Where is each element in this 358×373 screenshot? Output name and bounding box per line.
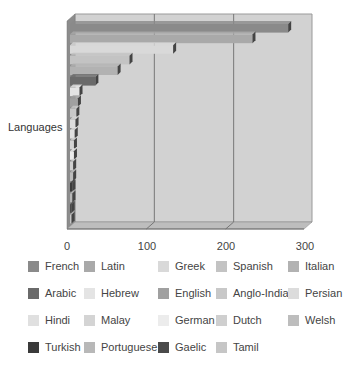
- legend-swatch: [288, 288, 299, 299]
- legend-swatch: [216, 288, 227, 299]
- legend-swatch: [84, 342, 95, 353]
- legend-item-turkish: Turkish: [28, 341, 81, 353]
- legend-label: Hindi: [45, 314, 70, 326]
- legend-label: Spanish: [233, 260, 273, 272]
- legend-label: Latin: [101, 260, 125, 272]
- legend-label: Turkish: [45, 341, 81, 353]
- legend-label: French: [45, 260, 79, 272]
- legend-item-portuguese: Portuguese: [84, 341, 157, 353]
- legend-swatch: [28, 261, 39, 272]
- legend-label: Greek: [175, 260, 205, 272]
- legend-label: Hebrew: [101, 287, 139, 299]
- legend-item-tamil: Tamil: [216, 341, 259, 353]
- legend-swatch: [158, 342, 169, 353]
- legend-swatch: [84, 288, 95, 299]
- legend-item-greek: Greek: [158, 260, 205, 272]
- legend-label: Welsh: [305, 314, 335, 326]
- legend-item-hindi: Hindi: [28, 314, 70, 326]
- legend-swatch: [288, 315, 299, 326]
- bar-english: [70, 95, 81, 107]
- legend-swatch: [216, 315, 227, 326]
- bar-anglo-indian: [70, 106, 79, 118]
- legend-item-hebrew: Hebrew: [84, 287, 139, 299]
- legend-swatch: [84, 315, 95, 326]
- x-tick-0: 0: [64, 240, 70, 252]
- legend-swatch: [216, 261, 227, 272]
- legend-item-anglo-indian: Anglo-Indian: [216, 287, 295, 299]
- legend-label: Arabic: [45, 287, 76, 299]
- legend-label: Dutch: [233, 314, 262, 326]
- legend-item-spanish: Spanish: [216, 260, 273, 272]
- plot-floor: [67, 222, 312, 229]
- legend-label: Malay: [101, 314, 130, 326]
- legend-item-dutch: Dutch: [216, 314, 262, 326]
- bar-chart: Languages 0 100 200 300 FrenchLatinGreek…: [0, 0, 358, 373]
- legend-swatch: [84, 261, 95, 272]
- x-tick-100: 100: [138, 240, 156, 252]
- legend-item-gaelic: Gaelic: [158, 341, 206, 353]
- legend-item-welsh: Welsh: [288, 314, 335, 326]
- legend-label: Portuguese: [101, 341, 157, 353]
- x-tick-200: 200: [217, 240, 235, 252]
- bar-latin: [70, 32, 255, 44]
- legend-item-persian: Persian: [288, 287, 342, 299]
- legend-swatch: [28, 342, 39, 353]
- legend-item-french: French: [28, 260, 79, 272]
- legend-swatch: [28, 315, 39, 326]
- legend-label: English: [175, 287, 211, 299]
- legend-item-malay: Malay: [84, 314, 130, 326]
- bar-spanish: [70, 53, 133, 65]
- legend-item-italian: Italian: [288, 260, 334, 272]
- legend-item-arabic: Arabic: [28, 287, 76, 299]
- legend-swatch: [216, 342, 227, 353]
- bar-greek: [70, 42, 176, 54]
- legend-swatch: [288, 261, 299, 272]
- legend-label: Gaelic: [175, 341, 206, 353]
- bar-french: [70, 21, 291, 33]
- legend-item-german: German: [158, 314, 215, 326]
- legend-label: Italian: [305, 260, 334, 272]
- legend-swatch: [158, 261, 169, 272]
- legend-label: German: [175, 314, 215, 326]
- legend-label: Persian: [305, 287, 342, 299]
- bar-persian: [70, 116, 79, 128]
- y-axis-label: Languages: [8, 121, 62, 133]
- legend-item-latin: Latin: [84, 260, 125, 272]
- bar-italian: [70, 63, 121, 75]
- x-tick-300: 300: [296, 240, 314, 252]
- legend-swatch: [158, 288, 169, 299]
- bar-hebrew: [70, 85, 83, 97]
- bar-arabic: [70, 74, 98, 86]
- legend-label: Anglo-Indian: [233, 287, 295, 299]
- legend-item-english: English: [158, 287, 211, 299]
- legend-swatch: [158, 315, 169, 326]
- legend-swatch: [28, 288, 39, 299]
- legend-label: Tamil: [233, 341, 259, 353]
